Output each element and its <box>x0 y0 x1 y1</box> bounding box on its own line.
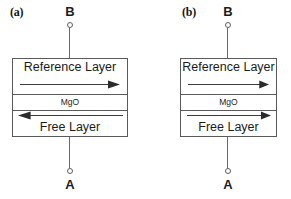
arrow-right-icon <box>187 111 271 120</box>
panel-a-stack: Reference Layer MgO Fr <box>12 58 128 137</box>
open-circle-terminal-icon <box>67 22 73 28</box>
panel-a-free-layer: Free Layer <box>13 111 127 136</box>
open-circle-terminal-icon <box>225 22 231 28</box>
panel-a-free-layer-label: Free Layer <box>13 120 127 135</box>
panel-b-reference-layer: Reference Layer <box>181 59 276 94</box>
panel-a: (a) B Reference Layer MgO <box>0 0 146 199</box>
panel-b-lead-bottom <box>227 137 228 168</box>
panel-a-lead-bottom <box>69 137 70 168</box>
figure-canvas: (a) B Reference Layer MgO <box>0 0 291 199</box>
arrow-left-icon <box>18 111 123 120</box>
panel-b-terminal-b-label: B <box>216 5 240 19</box>
panel-b-free-layer-label: Free Layer <box>181 120 276 135</box>
panel-b-lead-top <box>227 28 228 58</box>
panel-a-terminal-a-label: A <box>58 178 82 192</box>
panel-b-free-layer: Free Layer <box>181 111 276 136</box>
panel-b-terminal-a-label: A <box>216 178 240 192</box>
panel-a-barrier-layer: MgO <box>13 94 127 111</box>
panel-b-reference-layer-label: Reference Layer <box>181 60 276 75</box>
panel-a-reference-layer-label: Reference Layer <box>13 60 127 75</box>
panel-a-lead-top <box>69 28 70 58</box>
panel-a-label: (a) <box>10 5 23 19</box>
panel-b-label: (b) <box>182 5 196 19</box>
panel-b: (b) B Reference Layer MgO <box>146 0 291 199</box>
open-circle-terminal-icon <box>67 168 73 174</box>
open-circle-terminal-icon <box>225 168 231 174</box>
panel-b-barrier-layer-label: MgO <box>181 97 276 108</box>
panel-b-barrier-layer: MgO <box>181 94 276 111</box>
arrow-right-icon <box>188 80 269 89</box>
panel-b-stack: Reference Layer MgO Fr <box>180 58 277 137</box>
panel-a-reference-layer: Reference Layer <box>13 59 127 94</box>
panel-a-barrier-layer-label: MgO <box>13 97 127 108</box>
arrow-right-icon <box>20 80 120 89</box>
panel-a-terminal-b-label: B <box>58 5 82 19</box>
